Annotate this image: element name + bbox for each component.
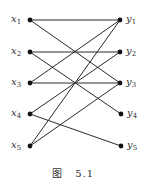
node-x2 <box>28 50 33 55</box>
label-y3: y3 <box>126 77 136 90</box>
edge-x5-y3 <box>30 83 120 146</box>
label-y1: y1 <box>126 14 136 27</box>
bipartite-graph <box>0 0 146 191</box>
edge-x4-y5 <box>30 114 121 146</box>
label-x4: x4 <box>11 108 21 121</box>
label-y2: y2 <box>126 46 136 59</box>
node-y1 <box>118 18 123 23</box>
label-x5: x5 <box>11 140 21 153</box>
edges <box>30 20 121 146</box>
label-y4: y4 <box>127 108 137 121</box>
label-x2: x2 <box>11 46 21 59</box>
label-y5: y5 <box>127 140 137 153</box>
node-y3 <box>118 81 123 86</box>
caption-number: 5.1 <box>75 168 94 179</box>
node-x1 <box>28 18 33 23</box>
node-x3 <box>28 81 33 86</box>
node-x4 <box>28 112 33 117</box>
label-x3: x3 <box>11 77 21 90</box>
label-x1: x1 <box>11 14 21 27</box>
node-y4 <box>119 112 124 117</box>
node-y2 <box>118 50 123 55</box>
caption-prefix: 图 <box>52 168 63 179</box>
node-y5 <box>119 144 124 149</box>
figure-caption: 图 5.1 <box>0 165 146 180</box>
node-x5 <box>28 144 33 149</box>
